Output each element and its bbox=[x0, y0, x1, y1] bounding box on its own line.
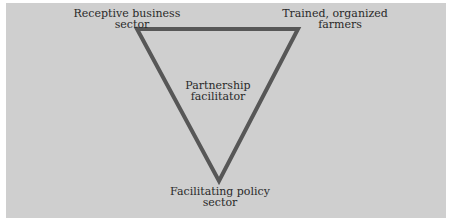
label-facilitating-policy-sector: Facilitating policy sector bbox=[155, 186, 285, 208]
label-line: facilitator bbox=[158, 91, 278, 102]
label-line: farmers bbox=[270, 19, 400, 30]
label-line: sector bbox=[155, 197, 285, 208]
label-partnership-facilitator: Partnership facilitator bbox=[158, 80, 278, 102]
label-trained-organized-farmers: Trained, organized farmers bbox=[270, 8, 400, 30]
label-line: sector bbox=[62, 19, 192, 30]
label-receptive-business-sector: Receptive business sector bbox=[62, 8, 192, 30]
